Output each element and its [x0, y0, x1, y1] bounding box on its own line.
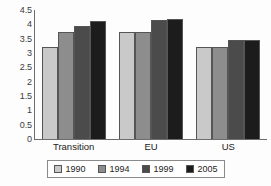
legend-label: 1990: [65, 164, 85, 174]
bar-group: [35, 10, 112, 139]
bars-container: [35, 10, 267, 139]
legend-item[interactable]: 2005: [186, 164, 217, 174]
y-tick-label: 2.5: [2, 63, 32, 72]
y-tick-label: 4.5: [2, 6, 32, 15]
bar-group: [112, 10, 189, 139]
legend-item[interactable]: 1999: [142, 164, 173, 174]
y-axis-tick-labels: 00.511.522.533.544.5: [2, 7, 32, 133]
bar-group: [190, 10, 267, 139]
bar: [151, 20, 167, 139]
y-tick-label: 2: [2, 77, 32, 86]
legend-swatch-icon: [98, 165, 106, 173]
bar: [58, 32, 74, 140]
x-category-label: US: [222, 141, 235, 153]
y-tick-label: 1.5: [2, 92, 32, 101]
x-category-label: EU: [144, 141, 157, 153]
bar: [119, 32, 135, 140]
legend-label: 2005: [197, 164, 217, 174]
legend-label: 1999: [153, 164, 173, 174]
legend-item[interactable]: 1994: [98, 164, 129, 174]
bar: [244, 40, 260, 139]
y-tick-label: 4: [2, 20, 32, 29]
legend-swatch-icon: [142, 165, 150, 173]
x-category-label: Transition: [53, 141, 94, 153]
x-axis-line: [34, 139, 267, 140]
y-tick-label: 0.5: [2, 120, 32, 129]
bar: [212, 47, 228, 139]
y-tick-label: 0: [2, 135, 32, 144]
bar: [135, 32, 151, 140]
legend-swatch-icon: [186, 165, 194, 173]
bar: [74, 26, 90, 139]
bar: [42, 47, 58, 139]
x-axis-category-labels: TransitionEUUS: [35, 141, 267, 155]
plot-area: 00.511.522.533.544.5 TransitionEUUS: [0, 0, 271, 150]
bar: [228, 40, 244, 139]
chart-legend: 1990199419992005: [47, 160, 225, 178]
bar: [167, 19, 183, 139]
bar: [90, 21, 106, 139]
bar: [196, 47, 212, 139]
bar-chart: 00.511.522.533.544.5 TransitionEUUS 1990…: [0, 0, 271, 186]
y-tick-label: 1: [2, 106, 32, 115]
legend-label: 1994: [109, 164, 129, 174]
y-tick-label: 3: [2, 49, 32, 58]
y-tick-label: 3.5: [2, 34, 32, 43]
legend-item[interactable]: 1990: [54, 164, 85, 174]
legend-swatch-icon: [54, 165, 62, 173]
